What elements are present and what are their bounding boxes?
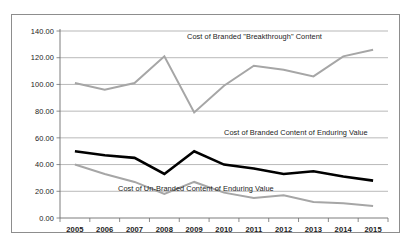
gridlines <box>60 31 388 191</box>
x-tick-label: 2011 <box>245 225 263 234</box>
x-tick-label: 2014 <box>335 225 353 234</box>
x-tick-label: 2007 <box>126 225 143 234</box>
y-tick-label: 80.00 <box>35 107 54 116</box>
chart-frame: 0.0020.0040.0060.0080.00100.00120.00140.… <box>11 14 400 233</box>
x-tick-label: 2015 <box>364 225 382 234</box>
x-tick-label: 2013 <box>305 225 322 234</box>
x-tick-label: 2006 <box>96 225 113 234</box>
x-tick-label: 2010 <box>215 225 232 234</box>
x-axis-tick-labels: 2005200620072008200920102011201220132014… <box>66 225 382 234</box>
series-line-1 <box>75 50 373 113</box>
series-annotation-1: Cost of Branded "Breakthrough" Content <box>187 32 322 41</box>
x-tick-label: 2009 <box>186 225 203 234</box>
y-tick-label: 140.00 <box>31 27 54 36</box>
x-tick-label: 2008 <box>156 225 173 234</box>
chart-page: 0.0020.0040.0060.0080.00100.00120.00140.… <box>0 0 413 250</box>
y-tick-label: 20.00 <box>35 187 54 196</box>
y-axis-tick-labels: 0.0020.0040.0060.0080.00100.00120.00140.… <box>31 27 54 223</box>
series-annotation-3: Cost of Un-Branded Content of Enduring V… <box>118 184 274 193</box>
line-chart: 0.0020.0040.0060.0080.00100.00120.00140.… <box>12 15 401 234</box>
y-tick-label: 60.00 <box>35 134 54 143</box>
series-annotation-2: Cost of Branded Content of Enduring Valu… <box>224 128 368 137</box>
y-tick-label: 100.00 <box>31 80 54 89</box>
x-tick-label: 2012 <box>275 225 292 234</box>
series-line-2 <box>75 151 373 180</box>
y-tick-label: 0.00 <box>39 214 54 223</box>
y-tick-label: 40.00 <box>35 160 54 169</box>
y-tick-label: 120.00 <box>31 53 54 62</box>
x-tick-label: 2005 <box>66 225 84 234</box>
